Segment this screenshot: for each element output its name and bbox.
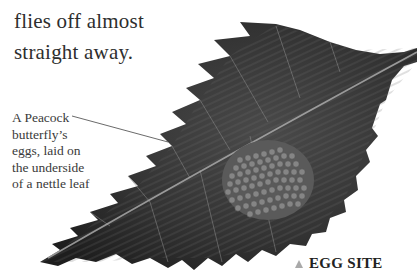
caption-line: eggs, laid on [12, 143, 132, 160]
caption-line: of a nettle leaf [12, 176, 132, 193]
caption-line: the underside [12, 160, 132, 177]
egg-cluster [222, 140, 314, 220]
caption-line: A Peacock [12, 110, 132, 127]
triangle-up-icon [295, 260, 303, 268]
figure-caption: A Peacock butterfly’s eggs, laid on the … [12, 110, 132, 193]
egg-site-label: EGG SITE [295, 255, 383, 272]
egg-site-text: EGG SITE [309, 255, 383, 272]
body-text: flies off almost straight away. [14, 6, 144, 68]
body-text-line: flies off almost [14, 6, 144, 37]
body-text-line: straight away. [14, 37, 144, 68]
caption-line: butterfly’s [12, 127, 132, 144]
